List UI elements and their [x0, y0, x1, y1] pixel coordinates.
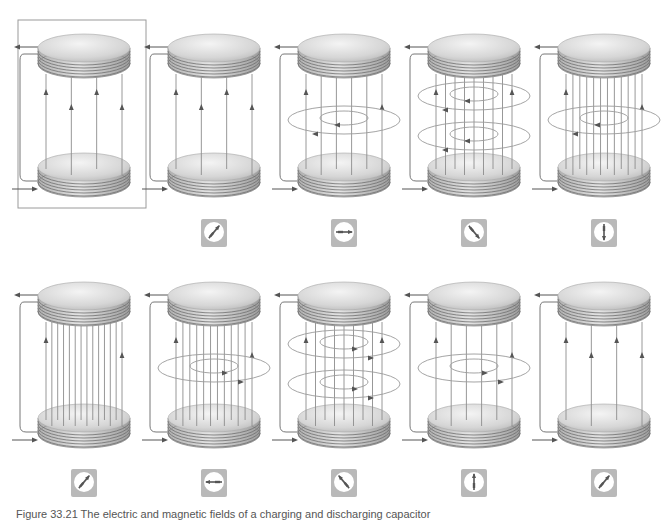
field-direction-arrow-icon: [94, 89, 99, 95]
compass-icon: [201, 469, 227, 497]
current-out-arrow-icon: [404, 45, 410, 50]
compass-icon: [591, 469, 617, 497]
loop-direction-arrow-icon: [352, 347, 358, 352]
connecting-wire: [20, 54, 38, 181]
current-out-arrow-icon: [274, 45, 280, 50]
bottom-plate: [558, 153, 650, 197]
bottom-plate: [558, 404, 650, 448]
capacitor-panel: [272, 34, 400, 197]
current-in-arrow-icon: [292, 438, 298, 443]
current-out-arrow-icon: [534, 45, 540, 50]
current-in-arrow-icon: [292, 187, 298, 192]
compass-icon: [591, 219, 617, 247]
field-direction-arrow-icon: [69, 104, 74, 110]
bottom-plate: [168, 153, 260, 197]
magnetic-field-loop: [418, 354, 530, 384]
figure-caption: Figure 33.21 The electric and magnetic f…: [16, 507, 430, 521]
capacitor-panel: [402, 34, 530, 197]
compass-icon: [71, 469, 97, 497]
top-plate: [168, 282, 260, 326]
capacitor-panel: [532, 34, 660, 197]
current-out-arrow-icon: [14, 293, 20, 298]
top-plate: [428, 282, 520, 326]
magnetic-field-loop: [288, 106, 400, 136]
loop-direction-arrow-icon: [334, 123, 340, 128]
compass-needle-icon: [331, 219, 357, 247]
current-out-arrow-icon: [144, 293, 150, 298]
top-plate: [558, 282, 650, 326]
compass-icon: [201, 219, 227, 247]
compass-needle-icon: [201, 219, 227, 247]
bottom-plate: [168, 404, 260, 448]
top-plate: [298, 282, 390, 326]
compass-icon: [461, 219, 487, 247]
compass-icon: [331, 219, 357, 247]
loop-direction-arrow-icon: [594, 123, 600, 128]
field-direction-arrow-icon: [434, 89, 439, 95]
loop-direction-arrow-icon: [482, 371, 488, 376]
current-out-arrow-icon: [404, 293, 410, 298]
connecting-wire: [150, 302, 168, 432]
field-direction-arrow-icon: [250, 104, 255, 110]
current-in-arrow-icon: [552, 187, 558, 192]
field-direction-arrow-icon: [380, 337, 385, 343]
compass-needle-icon: [331, 469, 357, 497]
compass-needle-icon: [461, 219, 487, 247]
top-plate: [298, 34, 390, 78]
bottom-plate: [38, 153, 130, 197]
current-in-arrow-icon: [422, 438, 428, 443]
compass-icon: [461, 469, 487, 497]
connecting-wire: [150, 54, 168, 181]
current-out-arrow-icon: [274, 293, 280, 298]
field-direction-arrow-icon: [44, 89, 49, 95]
capacitor-panel: [272, 282, 400, 448]
field-direction-arrow-icon: [434, 337, 439, 343]
bottom-plate: [298, 153, 390, 197]
field-direction-arrow-icon: [510, 89, 515, 95]
current-out-arrow-icon: [534, 293, 540, 298]
top-plate: [168, 34, 260, 78]
field-direction-arrow-icon: [614, 337, 619, 343]
connecting-wire: [280, 302, 298, 432]
current-in-arrow-icon: [32, 438, 38, 443]
compass-needle-icon: [461, 469, 487, 497]
capacitor-panel: [12, 20, 146, 208]
field-direction-arrow-icon: [304, 89, 309, 95]
field-direction-arrow-icon: [304, 337, 309, 343]
loop-direction-arrow-icon: [352, 387, 358, 392]
field-direction-arrow-icon: [199, 104, 204, 110]
field-direction-arrow-icon: [564, 337, 569, 343]
connecting-wire: [410, 302, 428, 432]
connecting-wire: [410, 54, 428, 181]
compass-needle-icon: [201, 469, 227, 497]
capacitor-panel: [402, 282, 530, 448]
capacitor-panel: [142, 34, 260, 197]
capacitor-panel: [142, 282, 270, 448]
loop-direction-arrow-icon: [222, 371, 228, 376]
current-in-arrow-icon: [552, 438, 558, 443]
current-in-arrow-icon: [162, 187, 168, 192]
magnetic-field-loop: [158, 354, 270, 384]
field-direction-arrow-icon: [44, 337, 49, 343]
field-direction-arrow-icon: [564, 89, 569, 95]
compass-needle-icon: [71, 469, 97, 497]
field-direction-arrow-icon: [589, 352, 594, 358]
top-plate: [558, 34, 650, 78]
current-in-arrow-icon: [422, 187, 428, 192]
compass-needle-icon: [591, 469, 617, 497]
connecting-wire: [540, 302, 558, 432]
field-direction-arrow-icon: [640, 352, 645, 358]
magnetic-field-loop: [548, 106, 660, 136]
field-direction-arrow-icon: [120, 104, 125, 110]
current-out-arrow-icon: [14, 45, 20, 50]
field-direction-arrow-icon: [174, 337, 179, 343]
compass-icon: [331, 469, 357, 497]
connecting-wire: [20, 302, 38, 432]
compass-needle-icon: [591, 219, 617, 247]
field-direction-arrow-icon: [174, 89, 179, 95]
capacitor-panel: [12, 282, 130, 448]
field-direction-arrow-icon: [120, 352, 125, 358]
bottom-plate: [428, 404, 520, 448]
capacitor-panel: [532, 282, 650, 448]
